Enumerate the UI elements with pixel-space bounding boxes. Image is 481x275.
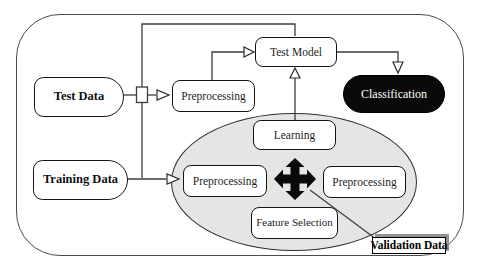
node-learning: Learning [253, 120, 336, 150]
node-preprocessing-left-label: Preprocessing [193, 175, 258, 187]
node-preprocessing-left: Preprocessing [183, 165, 267, 197]
node-test-model: Test Model [255, 37, 337, 67]
node-classification-label: Classification [361, 88, 427, 101]
node-test-model-label: Test Model [270, 46, 322, 58]
node-learning-label: Learning [274, 129, 316, 141]
node-preprocessing-top-label: Preprocessing [181, 90, 246, 102]
node-training-data-label: Training Data [43, 173, 118, 186]
node-test-data-label: Test Data [54, 90, 105, 103]
arrowhead-testmodel-bottom [290, 68, 300, 78]
node-validation-data: Validation Data [372, 237, 446, 254]
line-hop-bridge [137, 87, 148, 103]
node-feature-selection: Feature Selection [251, 207, 338, 239]
node-validation-data-label: Validation Data [370, 239, 447, 251]
arrowhead-testmodel-left [244, 47, 254, 57]
node-feature-selection-label: Feature Selection [256, 217, 333, 229]
edge-testmodel-to-classification [337, 52, 398, 62]
node-preprocessing-right-label: Preprocessing [332, 176, 397, 188]
node-classification: Classification [343, 75, 445, 113]
node-training-data: Training Data [33, 160, 128, 200]
node-test-data: Test Data [34, 77, 124, 117]
arrowhead-preprocessing-ellipse-left [167, 174, 179, 184]
arrowhead-classification-top [393, 62, 403, 73]
arrowhead-preprocessing-top-left [157, 90, 169, 100]
diagram-canvas: Test Data Training Data Preprocessing Te… [0, 0, 481, 275]
node-preprocessing-right: Preprocessing [323, 166, 406, 198]
connector-lines [0, 0, 481, 275]
node-preprocessing-top: Preprocessing [172, 80, 255, 112]
edge-preprocessing-to-testmodel [212, 52, 244, 80]
four-way-arrow-icon [274, 158, 316, 200]
